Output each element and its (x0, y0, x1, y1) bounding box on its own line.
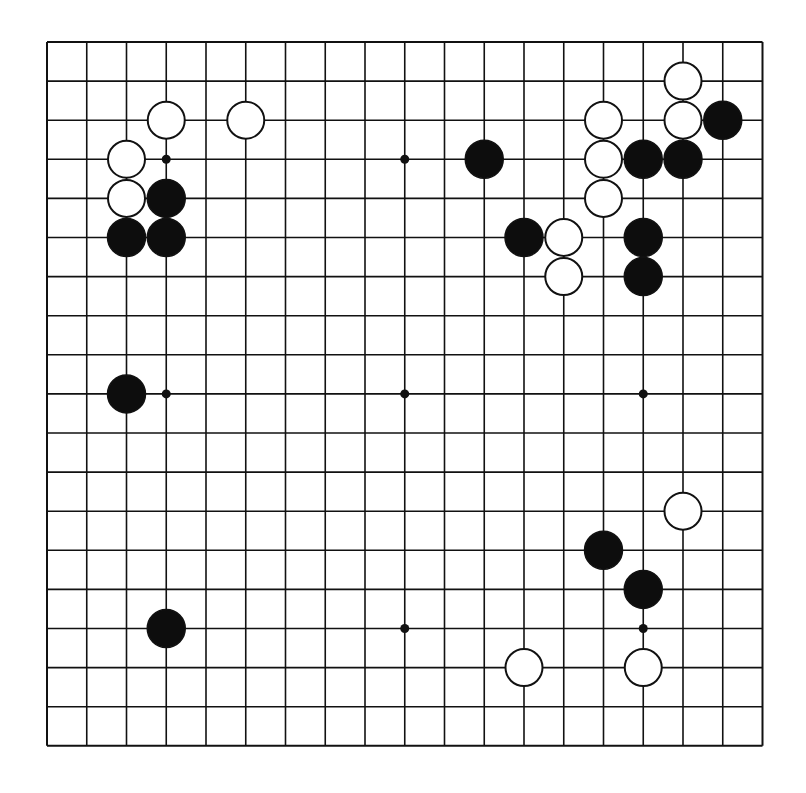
black-stone (147, 610, 185, 648)
white-stone (585, 102, 622, 139)
white-stone (665, 102, 702, 139)
black-stone (624, 570, 662, 608)
star-point (162, 389, 171, 398)
white-stone (148, 102, 185, 139)
black-stone (664, 140, 702, 178)
star-point (639, 624, 648, 633)
white-stone (227, 102, 264, 139)
black-stone (108, 219, 146, 257)
white-stone (665, 493, 702, 530)
star-point (162, 155, 171, 164)
black-stone (704, 101, 742, 139)
black-stone (624, 140, 662, 178)
star-point (400, 155, 409, 164)
white-stone (585, 180, 622, 217)
black-stone (147, 179, 185, 217)
black-stone (624, 219, 662, 257)
white-stone (665, 63, 702, 100)
black-stone (147, 219, 185, 257)
white-stone (545, 258, 582, 295)
black-stone (585, 531, 623, 569)
black-stone (108, 375, 146, 413)
white-stone (545, 219, 582, 256)
go-board[interactable] (0, 0, 806, 793)
white-stone (108, 180, 145, 217)
black-stone (505, 219, 543, 257)
star-point (639, 389, 648, 398)
stones-layer (108, 63, 742, 687)
star-point (400, 624, 409, 633)
black-stone (624, 258, 662, 296)
white-stone (585, 141, 622, 178)
white-stone (108, 141, 145, 178)
black-stone (465, 140, 503, 178)
white-stone (625, 649, 662, 686)
white-stone (506, 649, 543, 686)
star-point (400, 389, 409, 398)
